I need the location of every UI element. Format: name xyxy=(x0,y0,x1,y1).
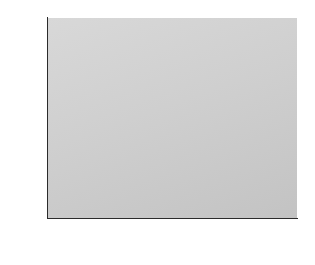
x-axis-line xyxy=(47,218,298,219)
plot-area xyxy=(48,18,297,218)
bar-chart xyxy=(0,0,315,265)
y-axis-tick-labels xyxy=(24,12,48,224)
